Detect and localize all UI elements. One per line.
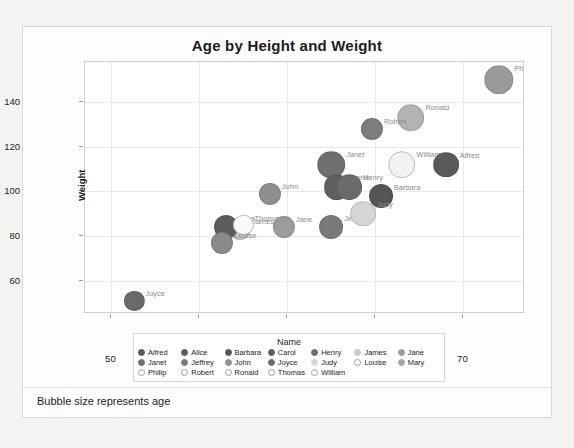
y-axis-tick: 140 xyxy=(0,96,20,107)
legend-item-mary[interactable]: Mary xyxy=(398,358,440,367)
bubble-john[interactable] xyxy=(259,183,281,205)
plot-canvas: PhilipRonaldRobertJanetWilliamAlfredCaro… xyxy=(84,61,524,313)
legend-item-carol[interactable]: Carol xyxy=(268,348,310,357)
bubble-label-judy: Judy xyxy=(377,199,393,208)
legend-item-janet[interactable]: Janet xyxy=(138,358,180,367)
gridline-horizontal xyxy=(85,281,523,282)
legend-swatch-icon xyxy=(398,359,405,366)
legend-swatch-icon xyxy=(311,369,318,376)
legend-item-william[interactable]: William xyxy=(311,368,353,377)
y-axis-tickmark xyxy=(79,146,83,147)
gridline-vertical xyxy=(199,62,200,312)
legend-item-jane[interactable]: Jane xyxy=(398,348,440,357)
bubble-philip[interactable] xyxy=(484,65,513,94)
legend-item-label: Joyce xyxy=(278,358,298,367)
legend-item-barbara[interactable]: Barbara xyxy=(225,348,267,357)
legend-swatch-icon xyxy=(311,349,318,356)
legend-item-james[interactable]: James xyxy=(354,348,396,357)
legend-item-philip[interactable]: Philip xyxy=(138,368,180,377)
legend-item-judy[interactable]: Judy xyxy=(311,358,353,367)
legend-swatch-icon xyxy=(398,349,405,356)
legend-swatch-icon xyxy=(354,359,361,366)
legend-item-label: Thomas xyxy=(278,368,305,377)
legend-swatch-icon xyxy=(268,359,275,366)
y-axis-tick: 100 xyxy=(0,185,20,196)
legend-item-alfred[interactable]: Alfred xyxy=(138,348,180,357)
bubble-henry[interactable] xyxy=(336,174,362,200)
legend-swatch-icon xyxy=(225,369,232,376)
x-axis-tick: 50 xyxy=(105,353,116,364)
legend-item-label: Jeffrey xyxy=(191,358,213,367)
legend-item-label: Mary xyxy=(408,358,425,367)
bubble-alfred[interactable] xyxy=(433,152,459,178)
legend-item-joyce[interactable]: Joyce xyxy=(268,358,310,367)
legend-item-thomas[interactable]: Thomas xyxy=(268,368,310,377)
gridline-horizontal xyxy=(85,102,523,103)
screenshot-page: Age by Height and Weight PhilipRonaldRob… xyxy=(0,0,574,448)
legend-swatch-icon xyxy=(311,359,318,366)
legend-item-label: Robert xyxy=(191,368,214,377)
chart-card: Age by Height and Weight PhilipRonaldRob… xyxy=(22,26,552,418)
legend-item-label: James xyxy=(364,348,386,357)
x-axis-tick: 70 xyxy=(457,353,468,364)
x-axis-tickmark xyxy=(462,314,463,318)
gridline-vertical xyxy=(463,62,464,312)
legend-item-label: Barbara xyxy=(235,348,262,357)
legend-item-henry[interactable]: Henry xyxy=(311,348,353,357)
legend-item-label: William xyxy=(321,368,345,377)
gridline-horizontal xyxy=(85,191,523,192)
legend-swatch-icon xyxy=(181,359,188,366)
y-axis-tickmark xyxy=(79,101,83,102)
gridline-vertical xyxy=(111,62,112,312)
legend-item-label: Carol xyxy=(278,348,296,357)
legend-swatch-icon xyxy=(181,349,188,356)
bubble-label-barbara: Barbara xyxy=(394,182,421,191)
legend-item-label: Alfred xyxy=(148,348,168,357)
legend-swatch-icon xyxy=(138,349,145,356)
legend-swatch-icon xyxy=(181,369,188,376)
legend: Name AlfredAliceBarbaraCarolHenryJamesJa… xyxy=(133,333,445,382)
legend-item-label: Jane xyxy=(408,348,424,357)
legend-item-label: Judy xyxy=(321,358,337,367)
y-axis-tickmark xyxy=(79,235,83,236)
bubble-label-jane: Jane xyxy=(296,214,312,223)
bubble-jane[interactable] xyxy=(273,216,295,238)
plot-area: PhilipRonaldRobertJanetWilliamAlfredCaro… xyxy=(84,61,524,313)
bubble-robert[interactable] xyxy=(361,118,383,140)
legend-title: Name xyxy=(138,337,440,347)
legend-item-label: Alice xyxy=(191,348,207,357)
x-axis-tickmark xyxy=(374,314,375,318)
bubble-label-ronald: Ronald xyxy=(425,102,449,111)
footer-divider xyxy=(23,387,551,388)
bubble-label-joyce: Joyce xyxy=(145,289,165,298)
legend-swatch-icon xyxy=(225,349,232,356)
legend-item-robert[interactable]: Robert xyxy=(181,368,223,377)
bubble-louise[interactable] xyxy=(211,232,233,254)
gridline-horizontal xyxy=(85,236,523,237)
y-axis-tick: 60 xyxy=(0,274,20,285)
bubble-jeffrey[interactable] xyxy=(319,215,343,239)
bubble-label-robert: Robert xyxy=(384,116,407,125)
legend-swatch-icon xyxy=(225,359,232,366)
legend-item-john[interactable]: John xyxy=(225,358,267,367)
bubble-joyce[interactable] xyxy=(124,290,144,310)
bubble-william[interactable] xyxy=(388,151,416,179)
chart-title: Age by Height and Weight xyxy=(23,37,551,54)
legend-swatch-icon xyxy=(138,369,145,376)
y-axis-tick: 120 xyxy=(0,140,20,151)
bubble-label-henry: Henry xyxy=(363,173,383,182)
x-axis-tickmark xyxy=(286,314,287,318)
legend-swatch-icon xyxy=(268,369,275,376)
legend-item-louise[interactable]: Louise xyxy=(354,358,396,367)
bubble-label-louise: Louise xyxy=(234,230,256,239)
gridline-horizontal xyxy=(85,147,523,148)
x-axis-tickmark xyxy=(110,314,111,318)
legend-item-alice[interactable]: Alice xyxy=(181,348,223,357)
legend-item-label: Henry xyxy=(321,348,341,357)
legend-swatch-icon xyxy=(268,349,275,356)
bubble-judy[interactable] xyxy=(350,201,376,227)
legend-item-jeffrey[interactable]: Jeffrey xyxy=(181,358,223,367)
legend-swatch-icon xyxy=(138,359,145,366)
bubble-label-janet: Janet xyxy=(346,149,364,158)
legend-item-ronald[interactable]: Ronald xyxy=(225,368,267,377)
